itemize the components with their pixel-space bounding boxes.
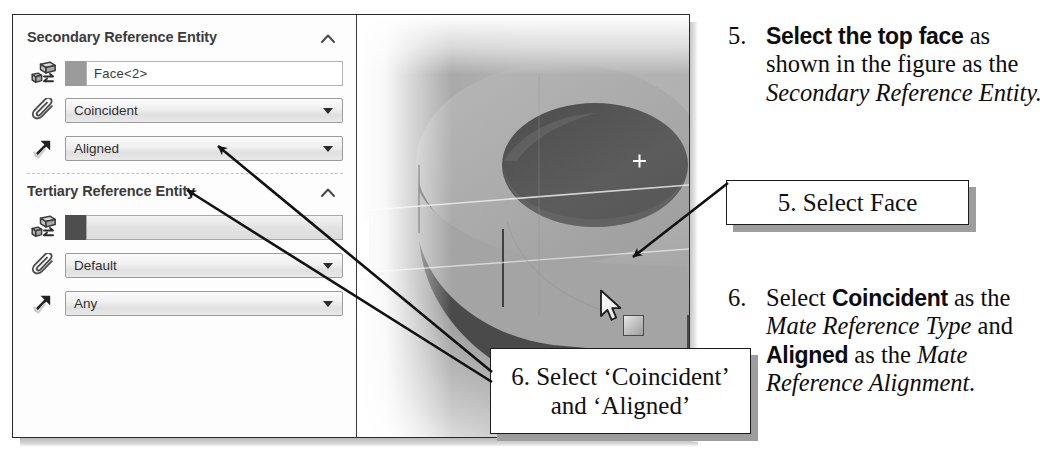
callout-select-face-text: 5. Select Face: [778, 188, 918, 218]
row-tertiary-mate-type: Default: [27, 251, 345, 281]
selection-color-swatch: [65, 215, 86, 240]
secondary-mate-type-value: Coincident: [74, 103, 138, 118]
step-5-number: 5.: [728, 22, 762, 50]
secondary-entity-value[interactable]: Face<2>: [86, 61, 343, 86]
alignment-arrow-icon: [27, 134, 61, 164]
secondary-alignment-value: Aligned: [74, 141, 119, 156]
chevron-down-icon[interactable]: [323, 108, 333, 114]
viewport-edge-fade-top: [357, 15, 689, 75]
selection-color-swatch: [65, 61, 86, 86]
step-6-body: Select Coincident as the Mate Reference …: [766, 284, 1058, 398]
chevron-down-icon[interactable]: [323, 301, 333, 307]
step-5: 5. Select the top face as shown in the f…: [728, 22, 1058, 107]
tertiary-entity-value[interactable]: [86, 215, 343, 240]
row-secondary-mate-type: Coincident: [27, 96, 345, 126]
section-title-secondary: Secondary Reference Entity: [27, 29, 217, 45]
row-secondary-alignment: Aligned: [27, 134, 345, 164]
chevron-down-icon[interactable]: [323, 263, 333, 269]
section-title-tertiary: Tertiary Reference Entity: [27, 183, 195, 199]
callout-select-mate-line1: 6. Select ‘Coincident’: [511, 362, 730, 392]
callout-select-mate-line2: and ‘Aligned’: [551, 391, 691, 421]
viewport-edge-fade-left: [357, 15, 452, 438]
step-6: 6. Select Coincident as the Mate Referen…: [728, 284, 1058, 398]
step-6-seg-8: .: [969, 369, 975, 396]
reference-entity-icon: [27, 213, 61, 243]
row-secondary-entity-selection: Face<2>: [27, 59, 345, 89]
step-6-seg-3: Mate Reference Type: [766, 312, 971, 339]
callout-select-mate: 6. Select ‘Coincident’ and ‘Aligned’: [490, 348, 751, 434]
chevron-up-icon[interactable]: [319, 184, 337, 202]
step-6-number: 6.: [728, 284, 762, 312]
tertiary-alignment-value: Any: [74, 296, 97, 311]
alignment-arrow-icon: [27, 289, 61, 319]
secondary-mate-reference-type-combo[interactable]: Coincident: [65, 98, 343, 123]
section-header-tertiary-reference-entity[interactable]: Tertiary Reference Entity: [27, 183, 343, 205]
mouse-pointer-icon: [599, 289, 625, 323]
paperclip-icon: [27, 96, 61, 126]
step-6-seg-6: as the: [848, 341, 917, 368]
row-tertiary-alignment: Any: [27, 289, 345, 319]
tertiary-mate-reference-type-combo[interactable]: Default: [65, 253, 343, 278]
step-5-seg-0: Select the top face: [766, 23, 964, 49]
step-5-seg-2: Secondary Reference Entity: [766, 79, 1036, 106]
secondary-entity-selection-field[interactable]: Face<2>: [65, 61, 343, 86]
chevron-up-icon[interactable]: [319, 30, 337, 48]
tertiary-mate-type-value: Default: [74, 258, 117, 273]
face-select-badge: [623, 315, 644, 336]
property-manager-panel: Secondary Reference Entity: [13, 15, 357, 438]
step-6-seg-1: Coincident: [832, 285, 948, 311]
paperclip-icon: [27, 251, 61, 281]
tertiary-mate-alignment-combo[interactable]: Any: [65, 291, 343, 316]
panel-divider: [27, 173, 343, 174]
chevron-down-icon[interactable]: [323, 146, 333, 152]
section-header-secondary-reference-entity[interactable]: Secondary Reference Entity: [27, 29, 343, 51]
step-5-body: Select the top face as shown in the figu…: [766, 22, 1058, 107]
reference-entity-icon: [27, 59, 61, 89]
secondary-mate-alignment-combo[interactable]: Aligned: [65, 136, 343, 161]
step-5-seg-3: .: [1036, 79, 1042, 106]
step-6-seg-2: as the: [948, 284, 1011, 311]
tertiary-entity-selection-field[interactable]: [65, 215, 343, 240]
step-6-seg-4: and: [971, 312, 1013, 339]
step-6-seg-0: Select: [766, 284, 832, 311]
row-tertiary-entity-selection: [27, 213, 345, 243]
step-6-seg-5: Aligned: [766, 342, 848, 368]
callout-select-face: 5. Select Face: [726, 180, 969, 225]
